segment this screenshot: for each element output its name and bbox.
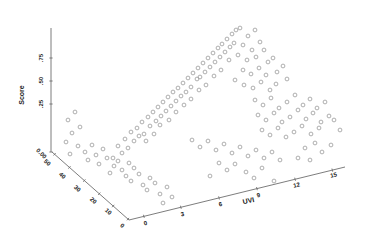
- data-point: [252, 176, 256, 180]
- data-point: [225, 37, 229, 41]
- data-point: [254, 148, 258, 152]
- data-point: [230, 151, 234, 155]
- data-point: [233, 162, 237, 166]
- data-point: [145, 188, 149, 192]
- data-point: [292, 130, 296, 134]
- data-point: [238, 26, 242, 30]
- x-axis-title: UVI: [242, 196, 255, 205]
- data-point: [189, 97, 193, 101]
- data-point: [140, 120, 144, 124]
- data-point: [201, 61, 205, 65]
- data-point: [257, 66, 261, 70]
- data-point: [78, 125, 82, 129]
- data-point: [179, 94, 183, 98]
- data-point: [227, 58, 231, 62]
- data-point: [225, 168, 229, 172]
- data-point: [129, 130, 133, 134]
- data-point: [158, 192, 162, 196]
- data-point: [212, 74, 216, 78]
- data-point: [272, 111, 276, 115]
- data-point: [223, 50, 227, 54]
- data-point: [132, 139, 136, 143]
- data-point: [90, 143, 94, 147]
- data-point: [242, 83, 246, 87]
- data-point: [219, 68, 223, 72]
- data-point: [280, 120, 284, 124]
- data-point: [284, 135, 288, 139]
- data-point: [191, 71, 195, 75]
- data-point: [241, 68, 245, 72]
- data-point: [120, 151, 124, 155]
- data-point: [189, 85, 193, 89]
- data-point: [148, 176, 152, 180]
- data-point: [232, 41, 236, 45]
- data-point: [268, 133, 272, 137]
- labels-group: ScoreUVI: [18, 85, 255, 205]
- data-point: [274, 82, 278, 86]
- x-tick-label: 12: [293, 181, 301, 188]
- data-point: [311, 111, 315, 115]
- data-point: [161, 201, 165, 205]
- data-point: [156, 105, 160, 109]
- data-point: [228, 45, 232, 49]
- data-point: [186, 76, 190, 80]
- data-point: [211, 51, 215, 55]
- z-tick-label: .25: [38, 99, 44, 108]
- y-tick-label: 50: [43, 158, 52, 167]
- data-point: [159, 114, 163, 118]
- data-point: [116, 144, 120, 148]
- data-point: [230, 32, 234, 36]
- data-point: [153, 181, 157, 185]
- z-tick-label: .75: [38, 53, 44, 62]
- data-point: [184, 90, 188, 94]
- 3d-scatter-figure: 0.00.25.50.755040302010003691215 ScoreUV…: [0, 0, 368, 238]
- data-point: [251, 86, 255, 90]
- data-point: [260, 128, 264, 132]
- data-point: [288, 115, 292, 119]
- data-point: [259, 80, 263, 84]
- data-point: [203, 70, 207, 74]
- data-point: [266, 60, 270, 64]
- x-tick-mark: [257, 187, 258, 190]
- x-tick-mark: [180, 206, 181, 209]
- data-point: [142, 132, 146, 136]
- data-point: [246, 154, 250, 158]
- data-point: [301, 103, 305, 107]
- y-tick-label: 10: [104, 207, 113, 216]
- y-tick-label: 30: [73, 184, 82, 193]
- data-point: [174, 99, 178, 103]
- data-point: [132, 166, 136, 170]
- data-point: [198, 145, 202, 149]
- data-point: [270, 150, 274, 154]
- data-point: [126, 146, 130, 150]
- data-point: [181, 81, 185, 85]
- data-point: [123, 137, 127, 141]
- data-point: [253, 28, 257, 32]
- data-point: [260, 166, 264, 170]
- data-point: [154, 119, 158, 123]
- data-point: [300, 124, 304, 128]
- data-point: [161, 100, 165, 104]
- data-point: [97, 162, 101, 166]
- data-point: [171, 90, 175, 94]
- data-point: [269, 96, 273, 100]
- data-point: [68, 152, 72, 156]
- data-point: [329, 143, 333, 147]
- data-point: [101, 147, 105, 151]
- data-point: [277, 106, 281, 110]
- data-point: [204, 83, 208, 87]
- data-point: [303, 146, 307, 150]
- data-point: [262, 48, 266, 52]
- data-point: [275, 70, 279, 74]
- data-point: [83, 150, 87, 154]
- data-point: [176, 86, 180, 90]
- data-point: [264, 73, 268, 77]
- data-point: [256, 113, 260, 117]
- data-point: [296, 156, 300, 160]
- data-point: [308, 158, 312, 162]
- data-point: [258, 40, 262, 44]
- data-point: [66, 118, 70, 122]
- data-point: [76, 144, 80, 148]
- data-point: [206, 56, 210, 60]
- z-axis-title: Score: [18, 85, 25, 105]
